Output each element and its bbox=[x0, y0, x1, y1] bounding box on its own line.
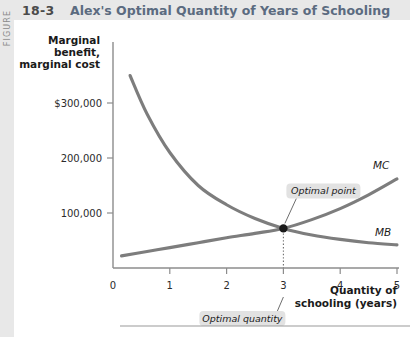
x-tick-label: 0 bbox=[110, 280, 116, 291]
mb-curve bbox=[130, 76, 397, 245]
y-tick-label: 100,000 bbox=[61, 208, 102, 219]
optimal-point-callout-label: Optimal point bbox=[291, 185, 357, 196]
figure-number: 18-3 bbox=[22, 3, 54, 18]
mc-curve-label: MC bbox=[373, 159, 390, 171]
x-tick-label: 1 bbox=[167, 280, 173, 291]
y-axis-title-line1: Marginal bbox=[48, 34, 100, 46]
y-axis-ticks: 100,000200,000$300,000 bbox=[54, 98, 113, 219]
figure-root: FIGURE 18-3 Alex's Optimal Quantity of Y… bbox=[0, 0, 410, 337]
optimal-point-marker bbox=[279, 224, 287, 232]
figure-side-strip: FIGURE bbox=[0, 0, 14, 337]
y-axis-title-line3: marginal cost bbox=[19, 58, 100, 70]
mb-curve-label: MB bbox=[375, 226, 391, 238]
y-tick-label: $300,000 bbox=[54, 98, 102, 109]
optimal-quantity-callout-label: Optimal quantity bbox=[202, 313, 283, 324]
y-axis-title-line2: benefit, bbox=[54, 46, 100, 58]
plot-area: 100,000200,000$300,000 012345 Marginal b… bbox=[14, 20, 410, 337]
x-axis-title-line2: schooling (years) bbox=[295, 297, 397, 309]
x-axis-title-line1: Quantity of bbox=[330, 284, 397, 296]
figure-title: Alex's Optimal Quantity of Years of Scho… bbox=[70, 3, 390, 18]
schooling-mb-mc-chart: 100,000200,000$300,000 012345 Marginal b… bbox=[14, 20, 410, 337]
y-tick-label: 200,000 bbox=[61, 153, 102, 164]
optimal-point-leader bbox=[285, 198, 297, 223]
x-tick-label: 3 bbox=[280, 280, 286, 291]
optimal-quantity-leader bbox=[277, 297, 283, 311]
x-tick-label: 2 bbox=[223, 280, 229, 291]
